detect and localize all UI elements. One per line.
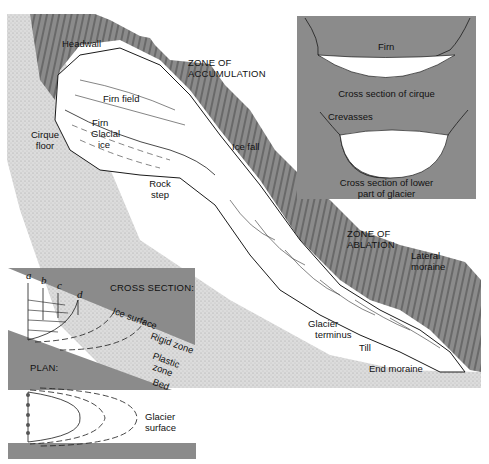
plan-profiles <box>28 388 137 446</box>
label-cirque-floor-1: Cirque <box>30 129 60 140</box>
marker-c: c <box>57 280 62 291</box>
plan-bottom-rock <box>8 443 196 459</box>
label-glacier-surface-2: surface <box>145 422 176 433</box>
label-lateral-moraine-2: moraine <box>411 261 445 272</box>
label-plan-title: PLAN: <box>30 362 58 373</box>
label-cirque-floor-2: floor <box>30 140 60 151</box>
label-ice-fall: Ice fall <box>232 141 259 152</box>
label-rock-step-2: step <box>147 189 173 200</box>
label-zone-ablation-2: ABLATION <box>347 239 395 250</box>
label-headwall: Headwall <box>62 38 101 49</box>
label-glacier-surface-1: Glacier <box>145 411 175 422</box>
label-glacial-ice-1: Glacial <box>91 128 120 139</box>
marker-d: d <box>77 289 83 300</box>
label-glacier-terminus-1: Glacier <box>308 318 338 329</box>
label-end-moraine: End moraine <box>369 363 423 374</box>
caption-cirque: Cross section of cirque <box>297 88 476 99</box>
label-lateral-moraine-1: Lateral <box>411 250 440 261</box>
caption-lower-glacier-1: Cross section of lower <box>297 177 476 188</box>
label-cross-section-title: CROSS SECTION: <box>110 282 194 293</box>
label-zone-accumulation-1: ZONE OF <box>188 57 232 68</box>
caption-lower-glacier-2: part of glacier <box>297 188 476 199</box>
label-inset-firn: Firn <box>378 41 394 52</box>
label-crevasses: Crevasses <box>328 111 373 122</box>
label-glacier-terminus-2: terminus <box>315 329 351 340</box>
label-rock-step-1: Rock <box>147 178 173 189</box>
label-glacial-ice-2: ice <box>98 139 110 150</box>
label-zone-ablation-1: ZONE OF <box>347 228 391 239</box>
label-firn-field: Firn field <box>103 93 139 104</box>
marker-a: a <box>26 270 32 281</box>
marker-b: b <box>41 275 47 286</box>
label-firn: Firn <box>92 117 108 128</box>
label-till: Till <box>359 342 371 353</box>
glacier-diagram: Headwall ZONE OF ACCUMULATION Firn field… <box>0 0 489 464</box>
label-zone-accumulation-2: ACCUMULATION <box>188 68 266 79</box>
